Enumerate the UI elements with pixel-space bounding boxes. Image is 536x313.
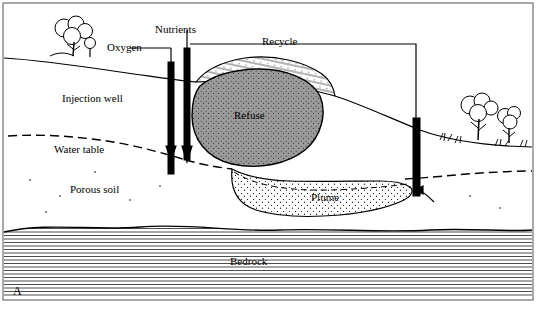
label-nutrients: Nutrients — [155, 24, 196, 35]
shrub-left — [85, 38, 96, 58]
recovery-well-right — [413, 118, 420, 196]
tree-left — [50, 16, 93, 56]
grass-right — [440, 133, 527, 147]
figure-panel: Nutrients Oxygen Recycle Injection well … — [0, 0, 536, 313]
label-porous-soil: Porous soil — [70, 184, 119, 195]
label-oxygen: Oxygen — [107, 42, 142, 53]
label-plume: Plume — [311, 192, 339, 203]
label-refuse: Refuse — [234, 110, 265, 121]
label-recycle: Recycle — [262, 36, 297, 47]
panel-label: A — [13, 285, 22, 297]
label-water-table: Water table — [54, 144, 104, 155]
tree-right-b — [498, 107, 521, 144]
label-injection-well: Injection well — [62, 93, 123, 104]
bedrock-fill — [4, 226, 532, 297]
tree-right-a — [461, 93, 498, 140]
label-bedrock: Bedrock — [230, 256, 267, 267]
water-table-right — [405, 171, 532, 179]
